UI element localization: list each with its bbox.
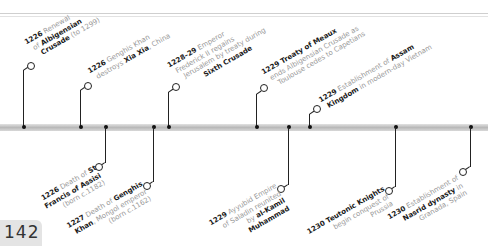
event-marker-icon [84,82,92,90]
event-marker-icon [313,105,321,113]
timeline-bar [0,124,488,131]
event-marker-icon [27,62,35,70]
page-number: 142 [4,222,39,242]
event-marker-icon [260,84,268,92]
event-marker-icon [459,168,467,176]
